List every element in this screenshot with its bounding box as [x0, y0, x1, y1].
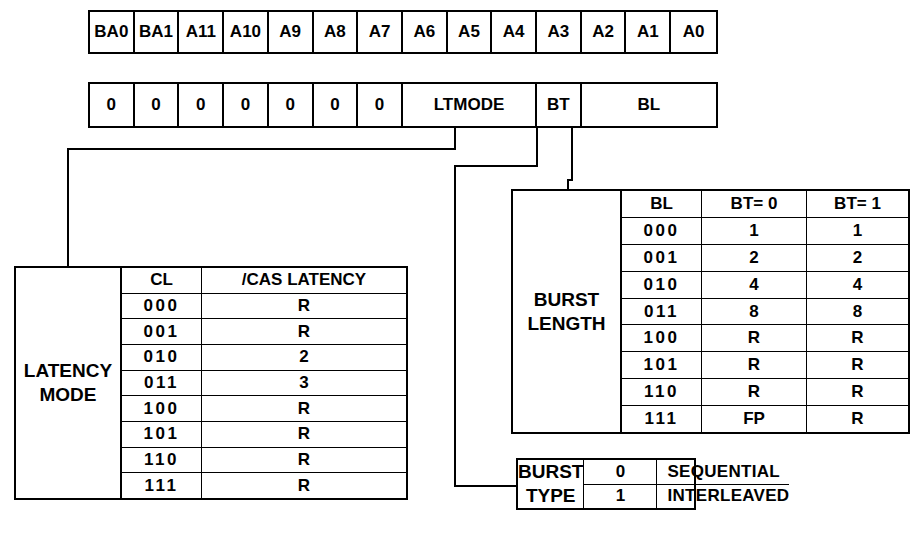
address-bit-cell: BA0: [90, 12, 135, 52]
burst-length-cell: 010: [622, 272, 702, 298]
burst-length-cell: 1: [702, 218, 807, 244]
latency-mode-label: LATENCY MODE: [16, 268, 122, 498]
burst-type-label: BURST TYPE: [518, 460, 584, 508]
address-bit-row: BA0BA1A11A10A9A8A7A6A5A4A3A2A1A0: [88, 10, 718, 54]
latency-mode-cell: R: [202, 396, 406, 421]
latency-mode-row: 0102: [122, 345, 406, 371]
burst-length-cell: 8: [807, 299, 908, 325]
latency-mode-row: 0113: [122, 371, 406, 397]
address-bit-cell: A1: [626, 12, 671, 52]
latency-mode-row: 001R: [122, 319, 406, 345]
address-bit-cell: A4: [492, 12, 537, 52]
address-bit-cell: A11: [179, 12, 224, 52]
mode-bit-cell-0: 0: [224, 84, 269, 126]
latency-mode-cell: R: [202, 473, 406, 498]
burst-type-cell: SEQUENTIAL: [657, 460, 789, 484]
burst-length-label: BURST LENGTH: [513, 191, 622, 432]
burst-length-row: 00011: [622, 218, 908, 245]
address-bit-cell: A2: [582, 12, 627, 52]
mode-bit-cell-bl: BL: [582, 84, 716, 126]
latency-mode-row: 000R: [122, 294, 406, 320]
burst-length-row: 110RR: [622, 379, 908, 406]
latency-mode-cell: 3: [202, 371, 406, 396]
latency-mode-row: 111R: [122, 473, 406, 498]
address-bit-cell: A10: [224, 12, 269, 52]
burst-type-cell: 0: [584, 460, 657, 484]
burst-length-cell: FP: [702, 406, 807, 432]
burst-length-cell: 111: [622, 406, 702, 432]
latency-mode-cell: R: [202, 319, 406, 344]
mode-bit-cell-0: 0: [90, 84, 135, 126]
address-bit-cell: A6: [403, 12, 448, 52]
connector-ltmode-to-latency: [68, 128, 455, 266]
burst-length-cell: 1: [807, 218, 908, 244]
latency-mode-cell: 000: [122, 294, 202, 319]
burst-type-row: 1INTERLEAVED: [584, 485, 789, 509]
latency-mode-label-line-2: MODE: [40, 383, 97, 407]
latency-mode-cell: 2: [202, 345, 406, 370]
mode-bit-cell-0: 0: [358, 84, 403, 126]
burst-type-cell: 1: [584, 485, 657, 509]
burst-length-row: 101RR: [622, 352, 908, 379]
burst-length-table: BURST LENGTH BLBT= 0BT= 1000110012201044…: [511, 189, 910, 434]
address-bit-cell: A0: [671, 12, 716, 52]
burst-length-cell: R: [807, 379, 908, 405]
burst-type-table: BURST TYPE 0SEQUENTIAL1INTERLEAVED: [516, 458, 696, 510]
mode-bit-cell-bt: BT: [537, 84, 582, 126]
burst-length-label-line-2: LENGTH: [527, 312, 605, 336]
latency-mode-header-row: CL/CAS LATENCY: [122, 268, 406, 294]
burst-type-grid: 0SEQUENTIAL1INTERLEAVED: [584, 460, 789, 508]
address-bit-cell: A9: [269, 12, 314, 52]
address-bit-cell: A3: [537, 12, 582, 52]
burst-type-cell: INTERLEAVED: [657, 485, 789, 509]
burst-length-cell: R: [702, 379, 807, 405]
burst-length-row: 111FPR: [622, 406, 908, 432]
burst-length-header-cell: BT= 0: [702, 191, 807, 217]
burst-length-cell: 011: [622, 299, 702, 325]
burst-length-cell: 4: [807, 272, 908, 298]
burst-length-row: 01044: [622, 272, 908, 299]
latency-mode-row: 110R: [122, 448, 406, 474]
mode-bit-cell-0: 0: [179, 84, 224, 126]
burst-type-label-line-1: BURST: [518, 460, 583, 484]
latency-mode-cell: 100: [122, 396, 202, 421]
latency-mode-row: 100R: [122, 396, 406, 422]
mode-bit-cell-0: 0: [269, 84, 314, 126]
latency-mode-row: 101R: [122, 422, 406, 448]
latency-mode-cell: 111: [122, 473, 202, 498]
burst-length-cell: 101: [622, 352, 702, 378]
latency-mode-header-cell: /CAS LATENCY: [202, 268, 406, 293]
burst-type-label-line-2: TYPE: [526, 484, 576, 508]
latency-mode-cell: R: [202, 294, 406, 319]
address-bit-cell: A7: [358, 12, 403, 52]
burst-length-grid: BLBT= 0BT= 100011001220104401188100RR101…: [622, 191, 908, 432]
latency-mode-cell: 011: [122, 371, 202, 396]
latency-mode-header-cell: CL: [122, 268, 202, 293]
latency-mode-table: LATENCY MODE CL/CAS LATENCY000R001R01020…: [14, 266, 408, 500]
mode-bit-cell-0: 0: [135, 84, 180, 126]
diagram-canvas: BA0BA1A11A10A9A8A7A6A5A4A3A2A1A0 0000000…: [0, 0, 924, 541]
burst-length-cell: 100: [622, 325, 702, 351]
burst-length-cell: 000: [622, 218, 702, 244]
burst-type-row: 0SEQUENTIAL: [584, 460, 789, 485]
burst-length-cell: R: [702, 325, 807, 351]
latency-mode-cell: 001: [122, 319, 202, 344]
burst-length-cell: 8: [702, 299, 807, 325]
burst-length-cell: 001: [622, 245, 702, 271]
burst-length-cell: 2: [807, 245, 908, 271]
burst-length-cell: 4: [702, 272, 807, 298]
latency-mode-cell: R: [202, 448, 406, 473]
address-bit-cell: BA1: [135, 12, 180, 52]
burst-length-row: 100RR: [622, 325, 908, 352]
burst-length-header-cell: BT= 1: [807, 191, 908, 217]
address-bit-cell: A5: [448, 12, 493, 52]
burst-length-cell: R: [702, 352, 807, 378]
mode-bit-cell-ltmode: LTMODE: [403, 84, 537, 126]
burst-length-cell: R: [807, 352, 908, 378]
latency-mode-cell: R: [202, 422, 406, 447]
burst-length-label-line-1: BURST: [534, 288, 599, 312]
burst-length-header-cell: BL: [622, 191, 702, 217]
burst-length-cell: R: [807, 325, 908, 351]
latency-mode-cell: 110: [122, 448, 202, 473]
burst-length-cell: R: [807, 406, 908, 432]
